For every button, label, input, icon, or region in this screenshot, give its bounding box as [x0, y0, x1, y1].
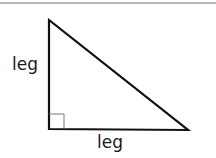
right-angle-marker	[49, 114, 64, 129]
vertical-leg-label: leg	[12, 56, 38, 73]
horizontal-leg-label: leg	[97, 134, 123, 151]
triangle-outline	[49, 20, 188, 130]
